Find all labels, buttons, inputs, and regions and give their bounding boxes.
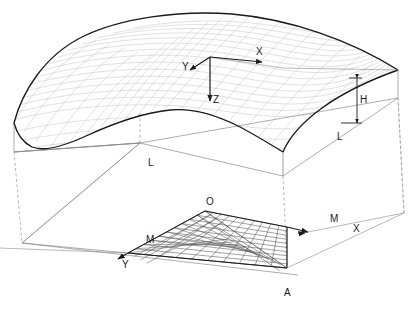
base-edge-right-up bbox=[298, 98, 398, 275]
mesh-m-right-label: M bbox=[330, 213, 338, 224]
plan-axis-y-label: Y bbox=[122, 259, 129, 270]
shell-mesh bbox=[12, 10, 413, 160]
plan-mesh-line-v bbox=[143, 245, 287, 260]
shell-near-edge-left bbox=[14, 110, 283, 152]
plan-right-vertical-dashed bbox=[398, 98, 404, 213]
origin-label: O bbox=[206, 196, 214, 207]
height-label: H bbox=[360, 94, 367, 105]
base-edge-bottom-right bbox=[298, 213, 404, 275]
base-front-vertical-dashed bbox=[283, 176, 287, 268]
shell-axis-y-label: Y bbox=[182, 61, 189, 72]
support-prism bbox=[14, 70, 398, 176]
plan-axis-x-label: X bbox=[353, 223, 360, 234]
mesh-m-left-label: M bbox=[146, 234, 154, 245]
base-left-diagonal bbox=[22, 143, 140, 243]
base-plane-outline bbox=[14, 98, 404, 268]
prism-top-rim-front bbox=[140, 143, 283, 176]
base-left-vertical-dashed bbox=[14, 152, 22, 243]
plan-axis-y-extension bbox=[0, 248, 128, 253]
shell-axis-x-label: X bbox=[256, 46, 263, 57]
base-bottom-right-edge-2 bbox=[287, 213, 404, 268]
shell-diagram-svg: X Y Z H L L bbox=[0, 0, 413, 310]
plan-mesh-line-v bbox=[182, 224, 287, 240]
shell-axis-x-line bbox=[210, 57, 262, 62]
point-a-label: A bbox=[284, 287, 291, 298]
plan-axis-x-arrow bbox=[287, 227, 308, 232]
span-l-right-label: L bbox=[337, 131, 343, 142]
shell-axis-z-label: Z bbox=[213, 94, 219, 105]
shell-far-edge bbox=[14, 13, 398, 123]
span-l-front-label: L bbox=[148, 157, 154, 168]
figure-canvas: X Y Z H L L bbox=[0, 0, 413, 310]
